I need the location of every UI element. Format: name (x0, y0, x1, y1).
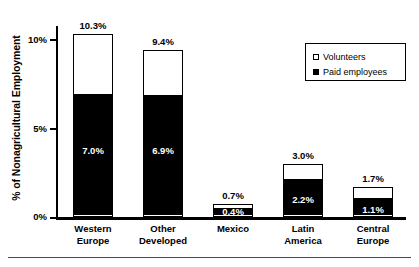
y-tick-mark-5 (50, 128, 57, 130)
bar-stack[interactable] (143, 50, 183, 217)
bar-total-label: 0.7% (204, 191, 262, 201)
stacked-bar-chart: % of Nonagricultural Employment 10% 5% 0… (0, 0, 419, 267)
y-tick-mark-0 (50, 217, 57, 219)
hollow-square-icon (313, 54, 319, 60)
legend-item-paid-employees[interactable]: Paid employees (313, 64, 405, 79)
bar-segment-volunteers (354, 188, 392, 198)
y-tick-label-5: 5% (7, 124, 47, 134)
bar-total-label: 9.4% (134, 37, 192, 47)
legend-item-volunteers[interactable]: Volunteers (313, 49, 405, 64)
x-axis-line (56, 217, 406, 220)
bar-segment-volunteers (74, 35, 112, 94)
bar-paid-label: 6.9% (143, 146, 183, 156)
y-axis-title: % of Nonagricultural Employment (10, 23, 22, 213)
cat-line-2: Developed (117, 235, 209, 247)
filled-square-icon (313, 69, 319, 75)
footer-divider (8, 257, 411, 258)
cat-line-1: Central (327, 223, 419, 235)
bar-stack[interactable] (283, 164, 323, 217)
bar-total-label: 1.7% (344, 174, 402, 184)
bar-paid-label: 0.4% (213, 207, 253, 217)
y-tick-label-0: 0% (7, 212, 47, 222)
bar-segment-volunteers (144, 51, 182, 95)
legend-label: Volunteers (323, 52, 366, 62)
bar-paid-label: 1.1% (353, 205, 393, 215)
x-category-label-central-europe: Central Europe (327, 223, 419, 246)
bar-paid-label: 7.0% (73, 146, 113, 156)
cat-line-2: Europe (327, 235, 419, 247)
bar-stack[interactable] (73, 34, 113, 217)
bar-total-label: 10.3% (64, 21, 122, 31)
chart-legend: Volunteers Paid employees (305, 43, 406, 81)
y-tick-mark-10 (50, 39, 57, 41)
legend-label: Paid employees (323, 67, 387, 77)
bar-paid-label: 2.2% (283, 195, 323, 205)
bar-total-label: 3.0% (274, 151, 332, 161)
bar-segment-volunteers (284, 165, 322, 179)
y-tick-label-10: 10% (7, 35, 47, 45)
